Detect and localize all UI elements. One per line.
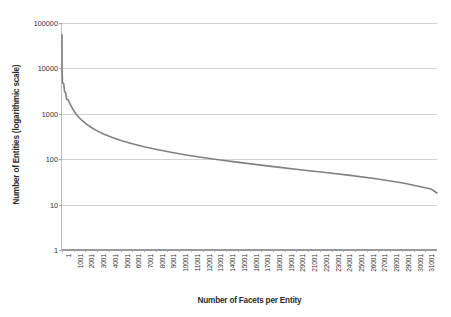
x-tick-mark [226, 250, 227, 252]
x-tick-label: 5001 [124, 254, 131, 268]
x-tick-mark [402, 250, 403, 252]
x-tick-label: 21001 [311, 254, 318, 272]
x-tick-label: 8001 [159, 254, 166, 268]
x-tick-mark [367, 250, 368, 252]
x-tick-label: 3001 [100, 254, 107, 268]
x-tick-label: 22001 [323, 254, 330, 272]
x-tick-label: 11001 [194, 254, 201, 271]
x-tick-label: 16001 [253, 254, 260, 272]
x-tick-label: 13001 [217, 254, 224, 272]
x-tick-mark [191, 250, 192, 252]
x-tick-mark [238, 250, 239, 252]
x-tick-label: 4001 [112, 254, 119, 268]
x-tick-mark [261, 250, 262, 252]
x-tick-label: 26001 [370, 254, 377, 272]
x-tick-mark [390, 250, 391, 252]
x-tick-mark [121, 250, 122, 252]
x-tick-mark [179, 250, 180, 252]
y-tick-label: 100000 [34, 19, 58, 28]
x-tick-mark [414, 250, 415, 252]
x-tick-label: 12001 [206, 254, 213, 272]
x-tick-mark [62, 250, 63, 252]
x-axis-title: Number of Facets per Entity [62, 296, 437, 305]
x-tick-mark [109, 250, 110, 252]
x-tick-label: 25001 [358, 254, 365, 272]
x-tick-mark [308, 250, 309, 252]
y-tick-label: 100 [46, 155, 58, 164]
x-tick-label: 9001 [170, 254, 177, 268]
x-tick-mark [214, 250, 215, 252]
x-tick-mark [144, 250, 145, 252]
x-tick-label: 31001 [428, 254, 435, 272]
x-tick-label: 18001 [276, 254, 283, 272]
x-tick-mark [296, 250, 297, 252]
x-tick-mark [425, 250, 426, 252]
x-tick-label: 30001 [417, 254, 424, 272]
x-tick-mark [156, 250, 157, 252]
x-tick-mark [273, 250, 274, 252]
y-tick-label: 1000 [42, 109, 58, 118]
x-tick-label: 23001 [335, 254, 342, 272]
y-tick-label: 10 [50, 200, 58, 209]
x-tick-label: 19001 [288, 254, 295, 272]
x-tick-mark [85, 250, 86, 252]
data-series-line [62, 23, 437, 250]
x-tick-label: 1 [65, 254, 72, 258]
x-tick-mark [320, 250, 321, 252]
x-tick-mark [74, 250, 75, 252]
x-tick-mark [167, 250, 168, 252]
x-tick-mark [250, 250, 251, 252]
x-tick-label: 28001 [393, 254, 400, 272]
y-tick-label: 1 [54, 246, 58, 255]
y-tick-label: 10000 [38, 64, 58, 73]
x-tick-mark [355, 250, 356, 252]
x-tick-mark [203, 250, 204, 252]
x-tick-label: 17001 [264, 254, 271, 272]
x-tick-mark [285, 250, 286, 252]
x-tick-label: 24001 [346, 254, 353, 272]
x-tick-mark [332, 250, 333, 252]
x-tick-label: 15001 [241, 254, 248, 272]
x-tick-label: 1001 [77, 254, 84, 268]
plot-area: 110100100010000100000 110012001300140015… [62, 23, 437, 250]
x-tick-mark [378, 250, 379, 252]
x-tick-mark [132, 250, 133, 252]
x-tick-label: 10001 [182, 254, 189, 272]
chart-figure: Number of Entities (logarithmic scale) 1… [0, 0, 451, 317]
x-tick-mark [97, 250, 98, 252]
x-tick-label: 7001 [147, 254, 154, 268]
x-tick-label: 2001 [88, 254, 95, 268]
x-tick-label: 29001 [405, 254, 412, 272]
x-tick-label: 14001 [229, 254, 236, 272]
y-axis-title: Number of Entities (logarithmic scale) [12, 35, 21, 235]
x-tick-label: 6001 [135, 254, 142, 268]
x-tick-label: 20001 [299, 254, 306, 272]
x-tick-mark [343, 250, 344, 252]
x-tick-label: 27001 [381, 254, 388, 272]
